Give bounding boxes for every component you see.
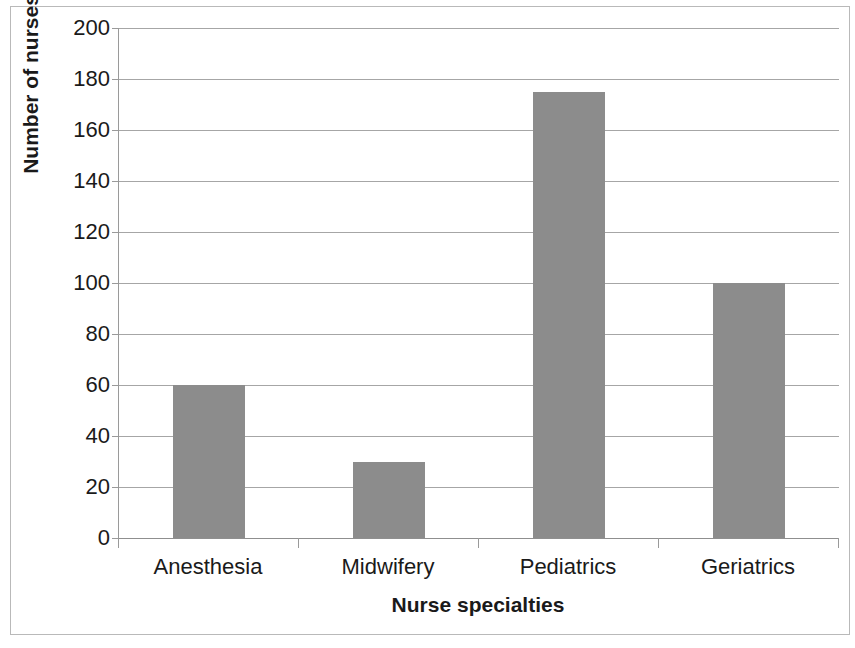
- y-axis-tick-label: 20: [40, 476, 110, 498]
- y-axis-tick: [112, 436, 119, 437]
- y-axis-tick: [112, 232, 119, 233]
- y-axis-tick-label: 80: [40, 323, 110, 345]
- x-axis-category-tick: [838, 538, 839, 548]
- y-axis-tick-labels: 200180160140120100806040200: [40, 0, 110, 648]
- y-axis-tick-label: 180: [40, 68, 110, 90]
- x-axis-label-geriatrics: Geriatrics: [658, 552, 838, 582]
- y-axis-tick-label: 120: [40, 221, 110, 243]
- y-axis-tick-label: 60: [40, 374, 110, 396]
- y-axis-tick-label: 160: [40, 119, 110, 141]
- y-axis-tick: [112, 130, 119, 131]
- y-axis-tick-label: 140: [40, 170, 110, 192]
- gridline: [119, 28, 839, 29]
- plot-area: [118, 28, 838, 538]
- x-axis-label-midwifery: Midwifery: [298, 552, 478, 582]
- y-axis-tick: [112, 283, 119, 284]
- bar-pediatrics[interactable]: [533, 92, 605, 538]
- bar-midwifery[interactable]: [353, 462, 425, 539]
- x-axis-category-tick: [478, 538, 479, 548]
- y-axis-tick-label: 100: [40, 272, 110, 294]
- y-axis-tick: [112, 334, 119, 335]
- x-axis-category-tick: [658, 538, 659, 548]
- x-axis-category-tick: [298, 538, 299, 548]
- gridline: [119, 79, 839, 80]
- gridline: [119, 232, 839, 233]
- x-axis-label-anesthesia: Anesthesia: [118, 552, 298, 582]
- x-axis-title: Nurse specialties: [118, 592, 838, 618]
- y-axis-tick: [112, 79, 119, 80]
- bar-geriatrics[interactable]: [713, 283, 785, 538]
- y-axis-tick: [112, 385, 119, 386]
- y-axis-tick-label: 0: [40, 527, 110, 549]
- x-axis-category-tick: [118, 538, 119, 548]
- y-axis-tick: [112, 487, 119, 488]
- x-axis-tick-labels: AnesthesiaMidwiferyPediatricsGeriatrics: [118, 552, 838, 586]
- y-axis-tick-label: 200: [40, 17, 110, 39]
- gridline: [119, 130, 839, 131]
- gridline: [119, 181, 839, 182]
- y-axis-tick: [112, 181, 119, 182]
- bar-chart: Number of nurses 20018016014012010080604…: [0, 0, 855, 648]
- bar-anesthesia[interactable]: [173, 385, 245, 538]
- y-axis-tick-label: 40: [40, 425, 110, 447]
- y-axis-tick: [112, 28, 119, 29]
- x-axis-category-ticks: [118, 538, 838, 548]
- x-axis-label-pediatrics: Pediatrics: [478, 552, 658, 582]
